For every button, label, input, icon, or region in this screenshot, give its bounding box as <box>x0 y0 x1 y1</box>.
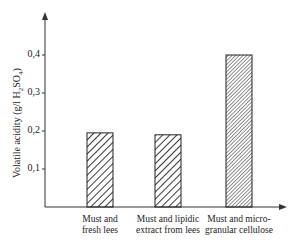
y-axis-arrow-icon <box>42 12 48 20</box>
x-axis-arrow-icon <box>279 204 287 210</box>
bar <box>155 135 181 207</box>
y-axis-label: Volatile acidity (g/l H2SO4) <box>11 68 25 178</box>
bars <box>87 55 252 207</box>
chart-canvas <box>0 0 296 247</box>
y-tick-label: 0,4 <box>14 48 40 59</box>
category-label: Must and micro-granular cellulose <box>194 214 284 236</box>
bar <box>87 133 113 207</box>
bar <box>226 55 252 207</box>
